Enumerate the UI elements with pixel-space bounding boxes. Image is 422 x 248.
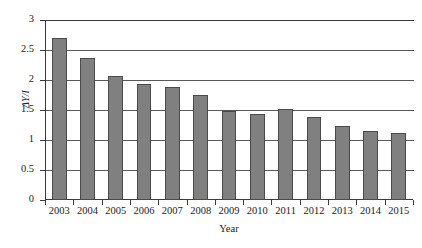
y-tick-label: 3	[0, 14, 34, 25]
bar	[250, 114, 265, 200]
x-tick-mark	[130, 200, 131, 205]
bar	[165, 87, 180, 200]
bar	[52, 38, 67, 200]
bars-series	[45, 20, 413, 200]
x-tick-label: 2009	[215, 206, 243, 217]
x-tick-label: 2007	[158, 206, 186, 217]
x-tick-mark	[356, 200, 357, 205]
bar	[137, 84, 152, 200]
x-tick-label: 2010	[243, 206, 271, 217]
x-tick-mark	[385, 200, 386, 205]
bar	[307, 117, 322, 200]
x-tick-label: 2004	[73, 206, 101, 217]
x-tick-mark	[215, 200, 216, 205]
x-tick-label: 2011	[271, 206, 299, 217]
bar	[363, 131, 378, 200]
x-tick-label: 2012	[300, 206, 328, 217]
y-tick-label: 2.5	[0, 44, 34, 55]
x-tick-mark	[271, 200, 272, 205]
x-tick-mark	[413, 200, 414, 205]
bar	[335, 126, 350, 200]
x-tick-mark	[243, 200, 244, 205]
x-tick-mark	[45, 200, 46, 205]
y-tick-label: 1.5	[0, 104, 34, 115]
x-tick-label: 2015	[385, 206, 413, 217]
x-tick-mark	[300, 200, 301, 205]
bar	[108, 76, 123, 200]
y-tick-label: 0.5	[0, 164, 34, 175]
bar	[278, 109, 293, 200]
x-axis-title: Year	[45, 224, 413, 235]
x-tick-mark	[102, 200, 103, 205]
bar	[193, 95, 208, 200]
x-tick-mark	[328, 200, 329, 205]
bar	[391, 133, 406, 200]
x-tick-label: 2006	[130, 206, 158, 217]
bar	[80, 58, 95, 200]
x-tick-mark	[187, 200, 188, 205]
x-tick-label: 2005	[102, 206, 130, 217]
x-tick-label: 2008	[187, 206, 215, 217]
x-tick-label: 2013	[328, 206, 356, 217]
y-tick-label: 2	[0, 74, 34, 85]
bar-chart: ΔY/I 00.511.522.53 200320042005200620072…	[0, 0, 422, 248]
x-tick-label: 2014	[356, 206, 384, 217]
x-tick-mark	[73, 200, 74, 205]
x-tick-label: 2003	[45, 206, 73, 217]
x-tick-mark	[158, 200, 159, 205]
bar	[222, 111, 237, 200]
y-tick-label: 1	[0, 134, 34, 145]
y-tick-label: 0	[0, 194, 34, 205]
